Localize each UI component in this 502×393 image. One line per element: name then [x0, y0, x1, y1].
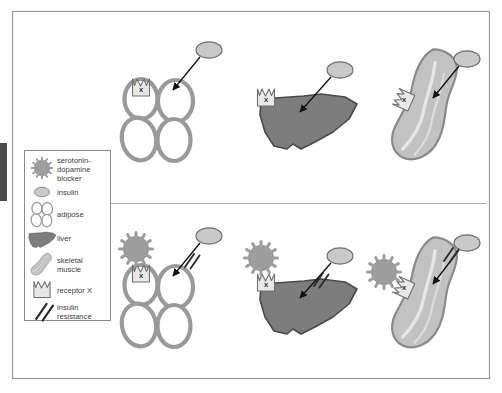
- insulin-icon: [454, 51, 480, 67]
- insulin-icon: [454, 235, 480, 251]
- legend-box[interactable]: serotonin- dopamine blocker insulin adip…: [25, 151, 111, 322]
- legend-label-line: insulin: [57, 303, 79, 312]
- insulin-icon: [327, 248, 353, 264]
- diagram-canvas: X X: [0, 0, 502, 393]
- legend-label-line: resistance: [57, 312, 92, 321]
- insulin-icon: [327, 62, 353, 78]
- legend-label-line: serotonin-: [57, 156, 91, 165]
- legend-label-line: skeletal: [57, 256, 83, 265]
- figure-root: X X: [0, 0, 502, 393]
- legend-label-line: receptor X: [57, 286, 92, 295]
- legend-label-line: adipose: [57, 210, 84, 219]
- insulin-icon: [196, 228, 222, 244]
- legend-label-line: insulin: [57, 188, 79, 197]
- legend-label-line: muscle: [57, 265, 81, 274]
- legend-label-line: liver: [57, 234, 71, 243]
- legend-label-line: dopamine: [57, 165, 90, 174]
- insulin-icon: [34, 187, 49, 197]
- legend-item-insulin[interactable]: insulin: [34, 187, 78, 197]
- insulin-icon: [196, 42, 222, 58]
- legend-label-line: blocker: [57, 174, 82, 183]
